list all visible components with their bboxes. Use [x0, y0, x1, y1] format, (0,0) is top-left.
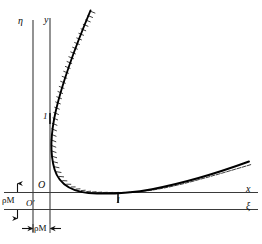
- xi-axis-label: ξ: [246, 201, 250, 211]
- origin-xi-eta-label: O': [26, 199, 34, 208]
- x-axis-label: x: [246, 184, 250, 194]
- horizontal-offset-label: ρM: [34, 224, 47, 233]
- origin-xy-label: O: [38, 180, 45, 190]
- x-tick-label-1: 1: [116, 196, 121, 205]
- vertical-offset-label: ρM: [2, 196, 15, 205]
- constraint-boundary-curve: [51, 11, 249, 194]
- figure-canvas: η y x ξ O O' 1 1 ρM ρM: [0, 0, 262, 244]
- eta-axis-label: η: [18, 16, 23, 26]
- figure-drawing: [0, 0, 262, 244]
- y-axis-label: y: [44, 15, 48, 25]
- y-tick-label-1: 1: [43, 112, 48, 121]
- curve-hatching: [51, 11, 251, 193]
